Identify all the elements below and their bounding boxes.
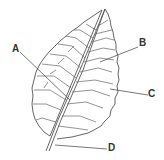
leader-line-d [55, 145, 107, 149]
label-b: B [139, 38, 146, 48]
label-d: D [108, 143, 115, 153]
leader-line-b [100, 47, 138, 62]
leaf-illustration [0, 0, 164, 160]
leaf-outline [32, 9, 119, 139]
label-a: A [12, 44, 19, 54]
veins-right [58, 20, 115, 130]
leader-line-c [110, 89, 148, 95]
label-c: C [148, 89, 155, 99]
